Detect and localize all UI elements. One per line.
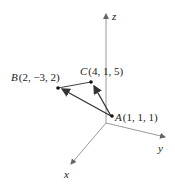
- vector-diagram: z y x B(2, −3, 2) C(4, 1, 5) A(1, 1, 1): [0, 0, 175, 184]
- point-b-label: B(2, −3, 2): [11, 71, 60, 84]
- x-axis-label: x: [63, 168, 69, 180]
- y-axis-label: y: [157, 142, 163, 154]
- point-a-label: A(1, 1, 1): [114, 111, 158, 124]
- y-axis: [106, 123, 165, 137]
- point-b: [56, 86, 60, 90]
- x-axis: [71, 123, 106, 164]
- z-axis-label: z: [111, 10, 117, 22]
- segment-bc: [58, 82, 91, 88]
- point-a: [110, 114, 114, 118]
- point-c: [89, 80, 93, 84]
- point-c-label: C(4, 1, 5): [80, 65, 124, 78]
